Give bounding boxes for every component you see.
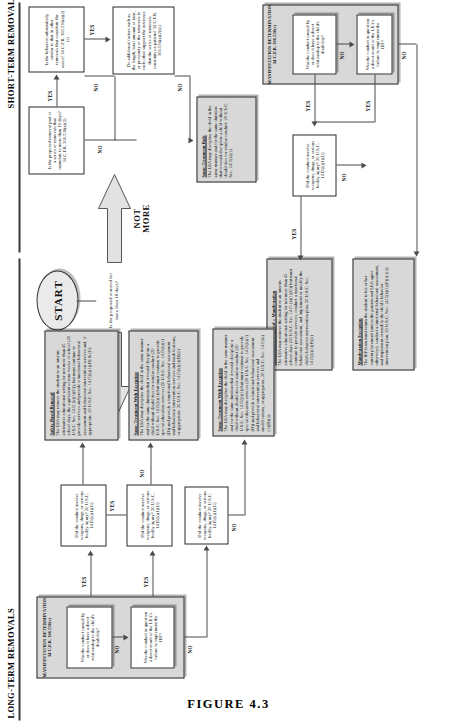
edge-similar-no bbox=[84, 75, 114, 76]
edge-label-md-short-yes-b: YES bbox=[364, 99, 370, 112]
edge-label-failure-no-long: NO bbox=[186, 644, 192, 654]
edge-weapons-short-yes-arrow bbox=[297, 255, 303, 260]
edge-weapons-bottom-no-arrow bbox=[241, 439, 247, 444]
edge-label-weapons-short-no: NO bbox=[340, 172, 346, 182]
edge-md-long-yes-a-arrow bbox=[87, 550, 93, 555]
note-safety-based-removal-manifestation: Safety-Based Removal + Manifestation The… bbox=[266, 258, 332, 370]
edge-failure-no-long-v bbox=[184, 636, 206, 637]
edge-weapons-long-yes-h-arrow bbox=[79, 442, 85, 447]
edge-caused-no-short-arrow bbox=[349, 41, 354, 47]
edge-failure-no-short bbox=[398, 43, 416, 44]
split-label-not-more: NOTMORE bbox=[132, 182, 151, 254]
band-label-long-term: LONG-TERM REMOVALS bbox=[5, 607, 15, 718]
note-same-treatment-with-exception-2-heading: Same-Treatment With Exception bbox=[216, 333, 221, 431]
edge-cumulate-yes-arrow bbox=[53, 74, 59, 79]
note-same-treatment-rule-heading: Same-Treatment Rule bbox=[200, 101, 205, 177]
note-safety-manifestation-body: The LEA may remove the student to an int… bbox=[276, 269, 313, 366]
edge-cumulate-no bbox=[84, 139, 136, 140]
node-failure-iep-long: Was the conduct in question a direct res… bbox=[130, 606, 174, 668]
edge-label-md-long-yes-b: YES bbox=[142, 575, 148, 588]
edge-md-short-yes-a bbox=[314, 74, 315, 122]
edge-caused-no-short bbox=[336, 43, 350, 44]
group-title-text-short: MANIFESTATION DETERMINATION 34 C.F.R. 30… bbox=[266, 4, 276, 84]
edge-label-weapons-short-yes: YES bbox=[290, 227, 296, 240]
note-same-treatment-with-exception: Same-Treatment With Exception The LEA ma… bbox=[128, 330, 198, 440]
figure-caption: FIGURE 4.3 bbox=[187, 697, 269, 712]
edge-label-md-long-yes-a: YES bbox=[80, 575, 86, 588]
edge-label-cumulate-no: NO bbox=[96, 144, 102, 154]
edge-failure-no-long-h bbox=[206, 549, 207, 637]
node-weapons-question-long: Did the conduct involve weapons, drugs, … bbox=[60, 484, 106, 546]
edge-factors-no bbox=[174, 75, 190, 76]
edge-md-short-yes-b bbox=[374, 74, 375, 122]
node-caused-by-disability-short: Was the conduct caused by or does it hav… bbox=[292, 14, 336, 74]
edge-label-weapons-long-yes: YES bbox=[108, 499, 114, 512]
edge-weapons-long-no-h-arrow bbox=[147, 442, 153, 447]
edge-label-failure-no-short: NO bbox=[400, 50, 406, 60]
edge-caused-no-long bbox=[112, 636, 124, 637]
note-same-treatment-with-exception-body: The LEA may discipline the child in the … bbox=[138, 335, 180, 435]
node-weapons-question-short: Did the conduct involve weapons, drugs, … bbox=[292, 134, 336, 196]
edge-cumulate-yes bbox=[56, 78, 57, 106]
node-failure-iep-short: Was the conduct in question a direct res… bbox=[356, 14, 392, 74]
edge-weapons-short-yes bbox=[300, 196, 301, 256]
note-manifestation-exception: Manifestation Exception The IEP team mus… bbox=[352, 258, 414, 370]
edge-same-treatment-arrow bbox=[188, 137, 193, 143]
edge-label-weapons-long-no: NO bbox=[138, 468, 144, 478]
node-cumulative-series-question: Is the proposed removal part of a series… bbox=[28, 106, 84, 174]
edge-caused-no-long-arrow bbox=[123, 634, 128, 640]
edge-md-long-yes-b bbox=[152, 554, 153, 596]
edge-weapons-short-no bbox=[336, 164, 362, 165]
edge-label-md-short-yes-a: YES bbox=[304, 99, 310, 112]
start-node: START bbox=[36, 270, 78, 330]
edge-failure-no-long-arrow bbox=[203, 545, 209, 550]
note-manifestation-exception-heading: Manifestation Exception bbox=[356, 263, 361, 365]
edge-md-long-yes-b-arrow bbox=[149, 550, 155, 555]
edge-similar-yes bbox=[84, 38, 106, 39]
edge-label-similar-yes: YES bbox=[88, 23, 94, 36]
edge-label-caused-no-long: NO bbox=[113, 644, 119, 654]
note-same-treatment-with-exception-2: Same-Treatment With Exception The LEA ma… bbox=[212, 328, 274, 436]
band-label-short-term: SHORT-TERM REMOVALS bbox=[5, 0, 15, 108]
edge-label-weapons-bottom-no: NO bbox=[230, 522, 236, 532]
note-same-treatment-with-exception-2-body: The LEA may discipline the child in the … bbox=[222, 334, 269, 431]
edge-weapons-bottom-no-v bbox=[228, 514, 244, 515]
edge-label-similar-no: NO bbox=[92, 82, 98, 92]
note-same-treatment-with-exception-heading: Same-Treatment With Exception bbox=[132, 335, 137, 435]
edge-similar-yes-arrow bbox=[105, 36, 110, 42]
note-safety-based-removal: Safety-Based Removal The LEA may remove … bbox=[44, 330, 118, 440]
note-same-treatment-rule: Same-Treatment Rule The LEA may discipli… bbox=[196, 96, 256, 182]
edge-similar-no-h bbox=[114, 76, 115, 140]
node-proposed-removal-more-than-10-days: Is the proposed removal for more than 10… bbox=[96, 264, 130, 336]
edge-md-long-yes-a bbox=[90, 554, 91, 596]
edge-weapons-bottom-no-h bbox=[244, 443, 245, 515]
edge-weapons-long-no-h bbox=[150, 446, 151, 484]
edge-md-short-yes-b-v bbox=[314, 121, 374, 122]
edge-failure-no-short-h bbox=[416, 44, 417, 252]
note-safety-based-removal-heading: Safety-Based Removal bbox=[48, 335, 53, 435]
edge-factors-no-h bbox=[189, 76, 190, 140]
group-title-manifestation-determination-long: MANIFESTATION DETERMINATION 34 C.F.R. 30… bbox=[41, 596, 52, 678]
edge-weapons-long-yes-h bbox=[82, 446, 83, 484]
band-rule-long-term bbox=[18, 258, 20, 720]
edge-label-caused-no-short: NO bbox=[338, 50, 344, 60]
node-caused-by-disability-long: Was the conduct caused by or does it hav… bbox=[66, 606, 112, 668]
note-manifestation-exception-body: The IEP team must return the student to … bbox=[362, 265, 388, 365]
edge-label-factors-no: NO bbox=[176, 82, 182, 92]
group-title-manifestation-determination-short: MANIFESTATION DETERMINATION 34 C.F.R. 30… bbox=[266, 4, 277, 84]
band-rule-short-term bbox=[18, 2, 20, 252]
figure-frame: SHORT-TERM REMOVALS LONG-TERM REMOVALS S… bbox=[0, 0, 457, 722]
flowchart-canvas: SHORT-TERM REMOVALS LONG-TERM REMOVALS S… bbox=[0, 0, 457, 722]
edge-weapons-short-no-arrow bbox=[361, 162, 366, 168]
note-safety-based-removal-body: The LEA may remove the student to an int… bbox=[54, 335, 91, 435]
note-same-treatment-rule-body: The LEA may discipline the child in the … bbox=[206, 102, 232, 177]
group-title-text-long: MANIFESTATION DETERMINATION 34 C.F.R. 30… bbox=[41, 597, 51, 677]
node-weapons-question-long-bottom: Did the conduct involve weapons, drugs, … bbox=[184, 486, 228, 544]
edge-start-stem bbox=[76, 300, 96, 301]
node-similar-behavior-question: Is the behavior substantially similar to… bbox=[28, 6, 84, 72]
node-additional-factors-question: Do additional factors such as the length… bbox=[112, 6, 174, 74]
edge-failure-no-short-arrow bbox=[413, 251, 419, 256]
edge-weapons-long-yes bbox=[106, 514, 126, 515]
split-chevron-not-more bbox=[92, 172, 136, 264]
edge-label-cumulate-yes: YES bbox=[46, 89, 52, 102]
